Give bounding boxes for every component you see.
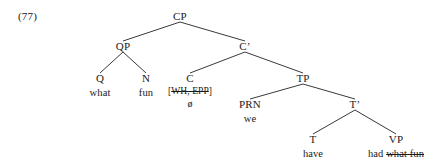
tree-edge-cp-to-qp <box>123 22 180 41</box>
tree-node-prn: PRNwe <box>239 99 261 124</box>
tree-edge-tp-to-prn <box>250 84 303 99</box>
tree-node-q: Qwhat <box>90 73 111 98</box>
node-label-q: Q <box>90 73 111 85</box>
node-label-c: C <box>168 73 212 85</box>
node-label-tbar: T’ <box>350 99 361 111</box>
tree-edge-tp-to-tbar <box>303 84 355 99</box>
tree-node-cp: CP <box>173 11 187 23</box>
example-number: (77) <box>18 10 37 22</box>
node-label-t: T <box>303 134 323 146</box>
tree-node-cbar: C’ <box>239 41 250 53</box>
tree-node-tp: TP <box>296 73 309 85</box>
tree-edge-cbar-to-tp <box>245 52 303 73</box>
node-word-q: what <box>90 87 111 98</box>
tree-node-c: C[WH, EPP]ø <box>168 73 212 109</box>
node-word-struck-vp: what fun <box>386 148 424 159</box>
node-word-vp: had what fun <box>368 148 424 159</box>
node-label-tp: TP <box>296 73 309 85</box>
syntax-tree-figure: (77) CPQPC’QwhatNfunC[WH, EPP]øTPPRNweT’… <box>0 0 445 164</box>
tree-edge-tbar-to-vp <box>355 110 396 134</box>
node-label-cp: CP <box>173 11 187 23</box>
tree-node-tbar: T’ <box>350 99 361 111</box>
tree-edge-qp-to-n <box>123 52 146 73</box>
node-word-prn: we <box>239 113 261 124</box>
node-label-prn: PRN <box>239 99 261 111</box>
node-feature-c: [WH, EPP] <box>168 87 212 97</box>
node-word-plain-vp: had <box>368 148 386 159</box>
tree-edge-cbar-to-c <box>190 52 245 73</box>
node-word-t: have <box>303 148 323 159</box>
tree-node-qp: QP <box>116 41 130 53</box>
tree-edge-cp-to-cbar <box>180 22 245 41</box>
node-label-vp: VP <box>368 134 424 146</box>
tree-edge-qp-to-q <box>100 52 123 73</box>
node-label-n: N <box>139 73 153 85</box>
node-label-qp: QP <box>116 41 130 53</box>
tree-node-n: Nfun <box>139 73 153 98</box>
node-word-n: fun <box>139 87 153 98</box>
tree-node-t: Thave <box>303 134 323 159</box>
tree-edge-tbar-to-t <box>313 110 355 134</box>
node-label-cbar: C’ <box>239 41 250 53</box>
tree-node-vp: VPhad what fun <box>368 134 424 159</box>
node-feature-struck-c: WH, EPP <box>171 86 209 96</box>
node-null-morpheme-c: ø <box>168 99 212 110</box>
